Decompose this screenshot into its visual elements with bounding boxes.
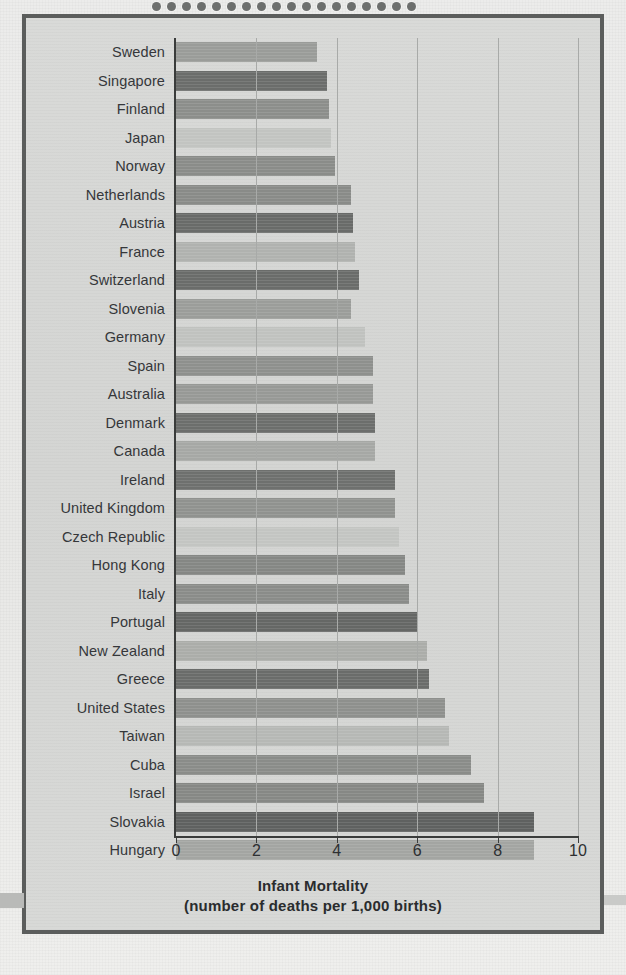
x-axis-title: Infant Mortality (number of deaths per 1… bbox=[22, 876, 604, 916]
bar bbox=[176, 555, 405, 575]
gridline bbox=[498, 38, 499, 836]
gridline bbox=[337, 38, 338, 836]
category-label: Portugal bbox=[22, 608, 174, 637]
binding-hole bbox=[332, 2, 341, 11]
binding-hole bbox=[152, 2, 161, 11]
category-label: Norway bbox=[22, 152, 174, 181]
bar bbox=[176, 441, 375, 461]
plot-area bbox=[174, 38, 578, 850]
category-label: Slovenia bbox=[22, 295, 174, 324]
bar bbox=[176, 527, 399, 547]
binding-hole bbox=[392, 2, 401, 11]
bar bbox=[176, 213, 353, 233]
category-label: United States bbox=[22, 694, 174, 723]
bar bbox=[176, 128, 331, 148]
bar bbox=[176, 185, 351, 205]
bar bbox=[176, 669, 429, 689]
category-label: Switzerland bbox=[22, 266, 174, 295]
category-label: Hong Kong bbox=[22, 551, 174, 580]
bar bbox=[176, 812, 534, 832]
x-axis-line bbox=[174, 836, 578, 838]
binding-hole bbox=[287, 2, 296, 11]
category-label: Singapore bbox=[22, 67, 174, 96]
x-tick-label: 0 bbox=[172, 842, 181, 860]
category-label: Denmark bbox=[22, 409, 174, 438]
bar bbox=[176, 99, 329, 119]
binding-hole bbox=[257, 2, 266, 11]
x-tick-label: 4 bbox=[332, 842, 341, 860]
category-label: Ireland bbox=[22, 466, 174, 495]
category-label: Canada bbox=[22, 437, 174, 466]
category-label: New Zealand bbox=[22, 637, 174, 666]
gridline bbox=[417, 38, 418, 836]
left-edge-marker bbox=[0, 893, 24, 908]
category-label: Cuba bbox=[22, 751, 174, 780]
infant-mortality-bar-chart: SwedenSingaporeFinlandJapanNorwayNetherl… bbox=[22, 14, 604, 934]
category-label: Finland bbox=[22, 95, 174, 124]
x-axis-title-sub: (number of deaths per 1,000 births) bbox=[22, 896, 604, 916]
bar bbox=[176, 726, 449, 746]
binding-hole bbox=[407, 2, 416, 11]
bar-series bbox=[176, 38, 578, 836]
binding-hole bbox=[242, 2, 251, 11]
x-tick-label: 8 bbox=[493, 842, 502, 860]
category-axis-labels: SwedenSingaporeFinlandJapanNorwayNetherl… bbox=[22, 38, 174, 865]
bar bbox=[176, 755, 471, 775]
spiral-binding-holes bbox=[0, 0, 626, 13]
bar bbox=[176, 156, 335, 176]
gridline bbox=[578, 38, 579, 836]
category-label: Slovakia bbox=[22, 808, 174, 837]
binding-hole bbox=[182, 2, 191, 11]
binding-hole bbox=[347, 2, 356, 11]
binding-hole bbox=[302, 2, 311, 11]
right-edge-marker bbox=[604, 895, 626, 905]
bar bbox=[176, 71, 327, 91]
category-label: Netherlands bbox=[22, 181, 174, 210]
binding-hole bbox=[212, 2, 221, 11]
binding-hole bbox=[377, 2, 386, 11]
bar bbox=[176, 584, 409, 604]
category-label: Sweden bbox=[22, 38, 174, 67]
category-label: Germany bbox=[22, 323, 174, 352]
gridline bbox=[256, 38, 257, 836]
category-label: Australia bbox=[22, 380, 174, 409]
binding-hole bbox=[362, 2, 371, 11]
bar bbox=[176, 413, 375, 433]
binding-hole bbox=[272, 2, 281, 11]
category-label: Czech Republic bbox=[22, 523, 174, 552]
category-label: Taiwan bbox=[22, 722, 174, 751]
category-label: Israel bbox=[22, 779, 174, 808]
x-tick-label: 10 bbox=[569, 842, 587, 860]
bar bbox=[176, 783, 484, 803]
bar bbox=[176, 384, 373, 404]
bar bbox=[176, 42, 317, 62]
x-tick-label: 6 bbox=[413, 842, 422, 860]
binding-hole bbox=[317, 2, 326, 11]
bar bbox=[176, 356, 373, 376]
bar bbox=[176, 498, 395, 518]
binding-hole bbox=[197, 2, 206, 11]
binding-hole bbox=[167, 2, 176, 11]
bar bbox=[176, 470, 395, 490]
binding-hole bbox=[227, 2, 236, 11]
bar bbox=[176, 299, 351, 319]
category-label: Japan bbox=[22, 124, 174, 153]
bar bbox=[176, 641, 427, 661]
bar bbox=[176, 698, 445, 718]
category-label: United Kingdom bbox=[22, 494, 174, 523]
category-label: Hungary bbox=[22, 836, 174, 865]
category-label: Italy bbox=[22, 580, 174, 609]
bar bbox=[176, 270, 359, 290]
x-axis-title-main: Infant Mortality bbox=[258, 877, 369, 894]
x-tick-label: 2 bbox=[252, 842, 261, 860]
bar bbox=[176, 612, 417, 632]
bar bbox=[176, 242, 355, 262]
category-label: Austria bbox=[22, 209, 174, 238]
x-axis-tick-labels: 0246810 bbox=[174, 842, 578, 868]
category-label: France bbox=[22, 238, 174, 267]
category-label: Spain bbox=[22, 352, 174, 381]
category-label: Greece bbox=[22, 665, 174, 694]
